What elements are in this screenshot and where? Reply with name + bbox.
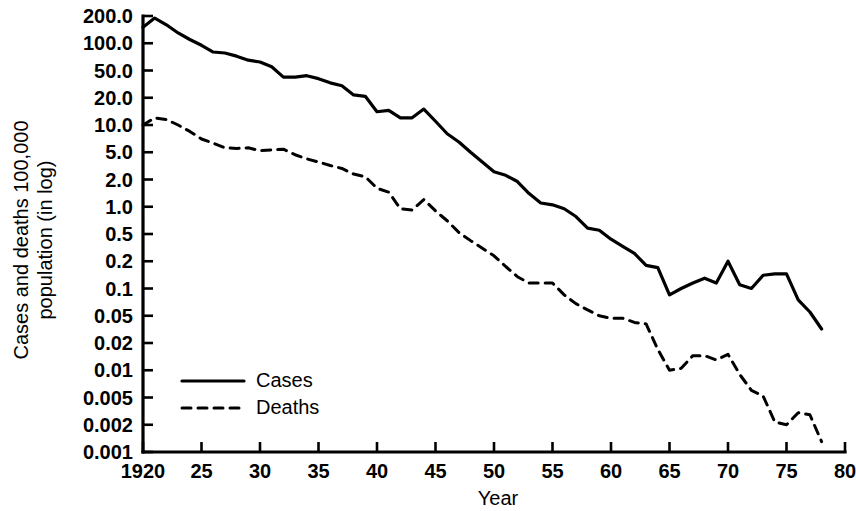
y-tick-label: 200.0 <box>83 5 133 27</box>
y-tick-label: 0.002 <box>83 414 133 436</box>
y-tick-label: 5.0 <box>105 141 133 163</box>
x-tick-label: 55 <box>541 460 563 482</box>
legend-label-cases: Cases <box>256 369 313 391</box>
y-tick-label: 50.0 <box>94 60 133 82</box>
x-tick-label: 80 <box>834 460 856 482</box>
y-tick-label: 0.05 <box>94 305 133 327</box>
legend-label-deaths: Deaths <box>256 396 319 418</box>
y-tick-label: 10.0 <box>94 114 133 136</box>
x-tick-label: 70 <box>717 460 739 482</box>
y-axis-title-line-2: population (in log) <box>34 161 56 320</box>
x-tick-label: 40 <box>366 460 388 482</box>
y-tick-label: 0.2 <box>105 250 133 272</box>
x-tick-label: 50 <box>483 460 505 482</box>
x-tick-label: 45 <box>424 460 446 482</box>
chart-legend: CasesDeaths <box>182 369 319 418</box>
y-tick-label: 0.01 <box>94 359 133 381</box>
y-axis-tick-labels: 200.0100.050.020.010.05.02.01.00.50.20.1… <box>83 5 133 463</box>
x-tick-label: 75 <box>775 460 797 482</box>
chart-figure: 200.0100.050.020.010.05.02.01.00.50.20.1… <box>0 0 856 511</box>
series-line-cases <box>143 18 822 329</box>
y-tick-label: 20.0 <box>94 87 133 109</box>
y-tick-label: 0.02 <box>94 332 133 354</box>
x-tick-label: 60 <box>600 460 622 482</box>
x-axis-title: Year <box>478 487 519 509</box>
y-tick-label: 0.5 <box>105 223 133 245</box>
x-tick-label: 35 <box>307 460 329 482</box>
line-chart: 200.0100.050.020.010.05.02.01.00.50.20.1… <box>0 0 856 511</box>
y-tick-label: 100.0 <box>83 32 133 54</box>
y-tick-label: 1.0 <box>105 196 133 218</box>
x-tick-label: 65 <box>658 460 680 482</box>
y-tick-label: 0.1 <box>105 278 133 300</box>
y-tick-label: 2.0 <box>105 169 133 191</box>
y-tick-label: 0.005 <box>83 387 133 409</box>
x-tick-label: 25 <box>190 460 212 482</box>
y-axis-title-line-1: Cases and deaths 100,000 <box>10 120 32 359</box>
x-axis-tick-labels: 1920253035404550556065707580 <box>121 460 856 482</box>
x-tick-label: 1920 <box>121 460 166 482</box>
x-tick-label: 30 <box>249 460 271 482</box>
